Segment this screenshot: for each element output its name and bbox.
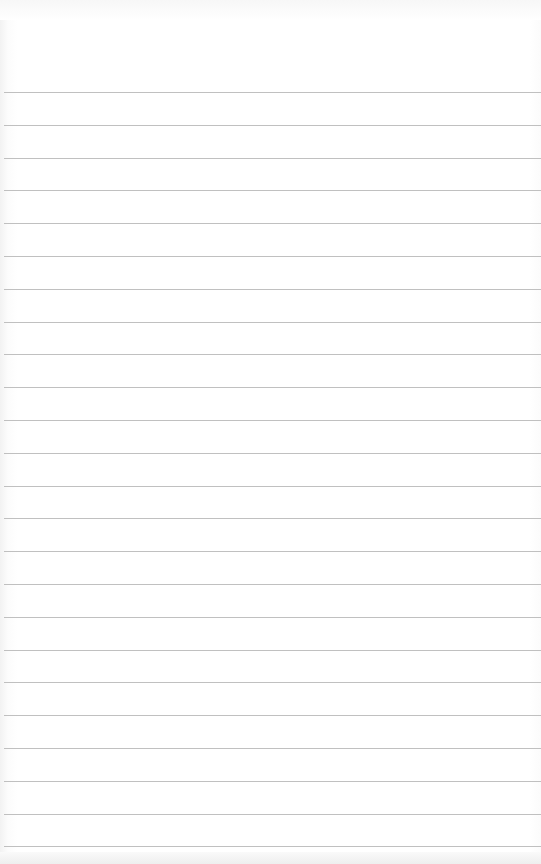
ruled-line [4,518,541,519]
ruled-line [4,748,541,749]
ruled-line [4,584,541,585]
ruled-line [4,650,541,651]
ruled-line [4,453,541,454]
ruled-line [4,846,541,847]
ruled-line [4,682,541,683]
ruled-line [4,814,541,815]
bottom-edge-shadow [0,852,541,864]
ruled-line [4,125,541,126]
ruled-line [4,715,541,716]
ruled-line [4,420,541,421]
ruled-line [4,92,541,93]
ruled-line [4,387,541,388]
ruled-line [4,322,541,323]
ruled-line [4,289,541,290]
ruled-line [4,190,541,191]
ruled-line [4,223,541,224]
ruled-line [4,617,541,618]
ruled-line [4,781,541,782]
ruled-line [4,486,541,487]
ruled-line [4,158,541,159]
lined-paper-page [0,0,541,864]
ruled-line [4,551,541,552]
top-edge-shadow [0,0,541,20]
ruled-line [4,256,541,257]
ruled-line [4,354,541,355]
